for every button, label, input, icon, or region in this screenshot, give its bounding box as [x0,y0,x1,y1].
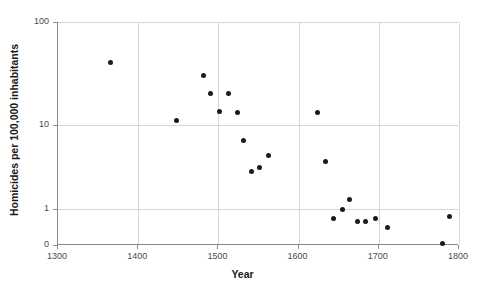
data-point [235,110,240,115]
data-point [201,73,206,78]
x-axis-title: Year [0,268,485,280]
gridline-vertical [138,22,139,244]
data-point [208,91,213,96]
x-tick-label: 1600 [278,251,318,261]
data-point [249,169,254,174]
x-tick-label: 1400 [117,251,157,261]
y-tick-mark [53,125,57,126]
data-point [241,138,246,143]
y-axis-title: Homicides per 100,000 inhabitants [8,44,20,216]
y-tick-label: 0 [19,239,49,249]
x-tick-label: 1300 [37,251,77,261]
data-point [440,241,445,246]
data-point [323,159,328,164]
gridline-vertical [379,22,380,244]
x-tick-mark [378,245,379,249]
gridline-vertical [459,22,460,244]
x-tick-mark [137,245,138,249]
scatter-chart: Homicides per 100,000 inhabitants 130014… [0,0,485,294]
gridline-vertical [299,22,300,244]
data-point [347,197,352,202]
gridline-horizontal [58,22,458,23]
x-tick-label: 1800 [438,251,478,261]
gridline-horizontal [58,125,458,126]
y-tick-label: 100 [19,16,49,26]
data-point [315,110,320,115]
data-point [257,165,262,170]
gridline-vertical [218,22,219,244]
y-tick-mark [53,245,57,246]
y-tick-label: 10 [19,119,49,129]
data-point [266,153,271,158]
gridline-horizontal [58,209,458,210]
x-tick-mark [458,245,459,249]
y-tick-label: 1 [19,203,49,213]
data-point [331,216,336,221]
data-point [108,60,113,65]
data-point [385,225,390,230]
data-point [373,216,378,221]
y-tick-mark [53,22,57,23]
data-point [447,214,452,219]
x-tick-label: 1500 [197,251,237,261]
data-point [217,109,222,114]
x-tick-mark [298,245,299,249]
x-tick-label: 1700 [358,251,398,261]
data-point [355,219,360,224]
data-point [174,118,179,123]
x-tick-mark [217,245,218,249]
y-tick-mark [53,209,57,210]
data-point [226,91,231,96]
data-point [340,207,345,212]
plot-area [57,22,458,245]
data-point [363,219,368,224]
y-axis-title-wrap: Homicides per 100,000 inhabitants [2,0,26,260]
x-tick-mark [57,245,58,249]
